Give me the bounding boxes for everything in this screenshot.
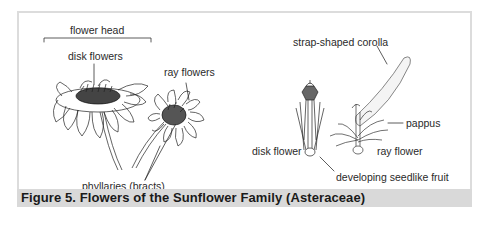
label-ray-flower: ray flower xyxy=(377,145,423,157)
label-developing-seedlike-fruit: developing seedlike fruit xyxy=(336,171,449,183)
figure-caption: Figure 5. Flowers of the Sunflower Famil… xyxy=(21,190,365,205)
label-strap-shaped-corolla: strap-shaped corolla xyxy=(293,36,388,48)
label-ray-flowers: ray flowers xyxy=(164,66,215,78)
ray-flower-head-drawing xyxy=(132,90,204,168)
ray-flower-drawing xyxy=(330,57,410,154)
label-pappus: pappus xyxy=(406,117,440,129)
label-disk-flowers: disk flowers xyxy=(68,50,123,62)
label-flower-head: flower head xyxy=(70,24,124,36)
label-disk-flower: disk flower xyxy=(252,145,302,157)
flower-head-drawing xyxy=(53,80,148,170)
